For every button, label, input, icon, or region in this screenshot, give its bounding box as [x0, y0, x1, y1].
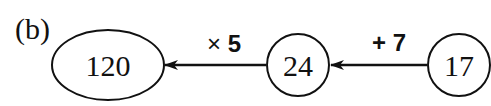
part-label: (b)	[15, 12, 50, 46]
node-start-value: 17	[444, 49, 474, 83]
node-result-value: 120	[86, 49, 131, 83]
flow-diagram	[0, 0, 491, 106]
op-add-value: 7	[393, 29, 406, 56]
op-multiply-symbol: ×	[207, 30, 221, 57]
op-multiply-value: 5	[228, 30, 241, 57]
op-add-label: + 7	[372, 29, 406, 57]
node-middle-value: 24	[283, 49, 313, 83]
op-add-symbol: +	[372, 29, 386, 56]
op-multiply-label: × 5	[207, 30, 241, 58]
